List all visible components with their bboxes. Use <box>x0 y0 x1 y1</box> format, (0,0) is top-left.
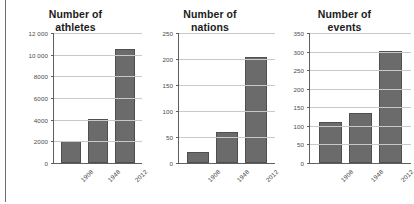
y-tick-label: 200 <box>293 85 304 92</box>
plot-wrap-athletes: 0200040006000800010 00012 000 1908194820… <box>8 33 143 163</box>
x-tick-label: 1948 <box>235 168 250 183</box>
y-tickmark <box>307 70 310 71</box>
plot-wrap-nations: 050100150200250 190819482012 <box>143 33 277 163</box>
y-tick-label: 50 <box>166 134 173 141</box>
gridline <box>310 144 411 145</box>
gridline <box>54 120 142 121</box>
x-axis-events: 190819482012 <box>277 164 412 204</box>
y-tickmark <box>51 55 54 56</box>
chart-title-line1: Number of <box>143 8 277 21</box>
bar <box>61 141 81 163</box>
y-tickmark <box>51 33 54 34</box>
y-tickmark <box>51 120 54 121</box>
y-tick-label: 6000 <box>34 95 48 102</box>
x-axis-nations: 190819482012 <box>143 164 277 204</box>
chart-title-athletes: Number of athletes <box>8 0 143 33</box>
y-tick-label: 300 <box>293 48 304 55</box>
gridline <box>310 107 411 108</box>
plot-wrap-events: 050100150200250300350 190819482012 <box>277 33 412 163</box>
y-tick-label: 100 <box>162 108 173 115</box>
y-tick-label: 100 <box>293 122 304 129</box>
gridline <box>54 76 142 77</box>
y-tick-label: 12 000 <box>28 30 48 37</box>
gridline <box>54 33 142 34</box>
y-tick-label: 350 <box>293 30 304 37</box>
x-tick-label: 1908 <box>339 168 354 183</box>
y-tickmark <box>176 33 179 34</box>
y-tickmark <box>51 98 54 99</box>
bar <box>349 113 372 164</box>
y-tickmark <box>307 107 310 108</box>
y-tick-label: 150 <box>162 82 173 89</box>
gridline <box>310 52 411 53</box>
x-tick-label: 2012 <box>399 168 414 183</box>
gridline <box>310 33 411 34</box>
plot-area-nations <box>178 33 275 164</box>
y-tick-label: 50 <box>297 141 304 148</box>
y-tick-label: 200 <box>162 56 173 63</box>
x-tick-label: 1908 <box>206 168 221 183</box>
gridline <box>54 98 142 99</box>
x-tick-label: 1948 <box>369 168 384 183</box>
y-tickmark <box>307 52 310 53</box>
y-tickmark <box>176 137 179 138</box>
bar <box>245 57 267 163</box>
gridline <box>54 55 142 56</box>
bars-layer-nations <box>179 33 275 163</box>
gridline <box>179 111 275 112</box>
gridline <box>179 137 275 138</box>
gridline <box>179 33 275 34</box>
gridline <box>310 89 411 90</box>
y-tick-label: 250 <box>293 67 304 74</box>
bar <box>319 122 342 163</box>
chart-panel-events: Number of events 050100150200250300350 1… <box>277 0 412 202</box>
y-tickmark <box>307 126 310 127</box>
y-tickmark <box>307 33 310 34</box>
plot-area-events <box>309 33 411 164</box>
gridline <box>54 141 142 142</box>
x-axis-athletes: 190819482012 <box>8 164 143 204</box>
chart-title-line1: Number of <box>277 8 412 21</box>
y-tick-label: 250 <box>162 30 173 37</box>
plot-area-athletes <box>53 33 142 164</box>
y-tickmark <box>307 144 310 145</box>
y-tickmark <box>176 85 179 86</box>
gridline <box>179 59 275 60</box>
gridline <box>310 126 411 127</box>
y-tickmark <box>307 89 310 90</box>
gridline <box>310 70 411 71</box>
x-tick-label: 1908 <box>79 168 94 183</box>
chart-title-line1: Number of <box>8 8 143 21</box>
y-tickmark <box>176 59 179 60</box>
chart-panel-nations: Number of nations 050100150200250 190819… <box>143 0 277 202</box>
y-tick-label: 150 <box>293 104 304 111</box>
y-tick-label: 10 000 <box>28 51 48 58</box>
chart-title-events: Number of events <box>277 0 412 33</box>
chart-title-nations: Number of nations <box>143 0 277 33</box>
charts-row: Number of athletes 0200040006000800010 0… <box>8 0 412 202</box>
y-tickmark <box>51 141 54 142</box>
y-tick-label: 4000 <box>34 116 48 123</box>
bar <box>115 49 135 163</box>
y-tickmark <box>51 76 54 77</box>
x-tick-label: 1948 <box>106 168 121 183</box>
y-tick-label: 2000 <box>34 138 48 145</box>
y-tickmark <box>176 111 179 112</box>
gridline <box>179 85 275 86</box>
bar <box>187 152 209 163</box>
y-tick-label: 8000 <box>34 73 48 80</box>
page-gutter-rule <box>5 0 6 202</box>
chart-panel-athletes: Number of athletes 0200040006000800010 0… <box>8 0 143 202</box>
